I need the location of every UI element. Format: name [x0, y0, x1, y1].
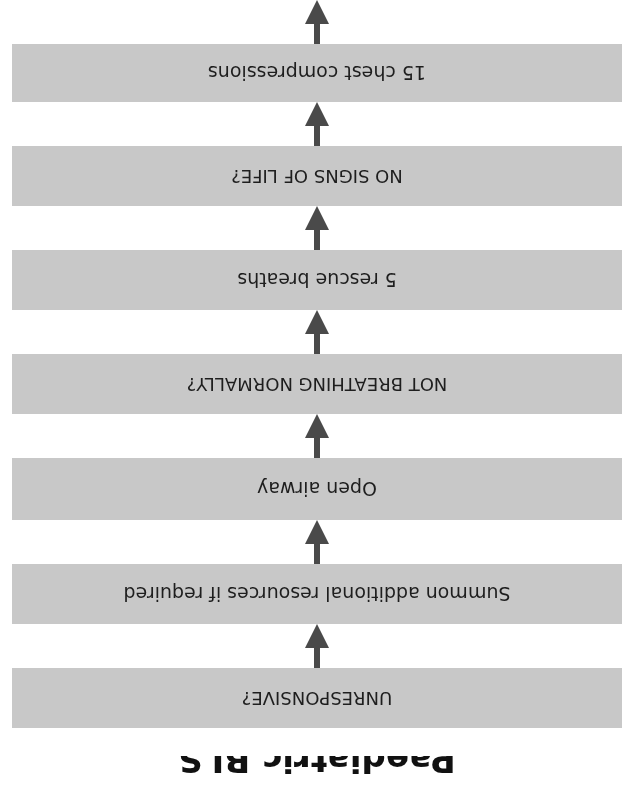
step-label: Open airway [257, 477, 377, 501]
step-not-breathing: NOT BREATHING NORMALLY? [12, 354, 622, 414]
arrow-7 [303, 0, 331, 44]
step-unresponsive: UNRESPONSIVE? [12, 668, 622, 728]
step-label: 5 rescue breaths [237, 268, 397, 292]
step-summon-resources: Summon additional resources if required [12, 564, 622, 624]
step-label: 15 chest compressions [208, 61, 426, 85]
arrow-5 [303, 206, 331, 250]
step-label: NOT BREATHING NORMALLY? [187, 372, 448, 396]
arrow-head-icon [305, 624, 329, 648]
arrow-shaft [314, 126, 320, 146]
step-rescue-breaths: 5 rescue breaths [12, 250, 622, 310]
arrow-head-icon [305, 206, 329, 230]
arrow-shaft [314, 230, 320, 250]
arrow-2 [303, 520, 331, 564]
step-label: NO SIGNS OF LIFE? [231, 164, 403, 188]
step-label: UNRESPONSIVE? [242, 686, 392, 710]
step-no-signs-of-life: NO SIGNS OF LIFE? [12, 146, 622, 206]
flowchart-title-fragment: Paediatric BLS [0, 756, 634, 796]
arrow-3 [303, 414, 331, 458]
arrow-head-icon [305, 310, 329, 334]
flowchart-rotated: Paediatric BLS UNRESPONSIVE? Summon addi… [0, 0, 634, 796]
arrow-shaft [314, 24, 320, 44]
arrow-shaft [314, 438, 320, 458]
arrow-head-icon [305, 520, 329, 544]
arrow-6 [303, 102, 331, 146]
arrow-shaft [314, 334, 320, 354]
arrow-shaft [314, 648, 320, 668]
step-open-airway: Open airway [12, 458, 622, 520]
arrow-1 [303, 624, 331, 668]
arrow-shaft [314, 544, 320, 564]
arrow-head-icon [305, 102, 329, 126]
arrow-head-icon [305, 414, 329, 438]
step-label: Summon additional resources if required [124, 582, 511, 606]
step-chest-compressions: 15 chest compressions [12, 44, 622, 102]
arrow-4 [303, 310, 331, 354]
arrow-head-icon [305, 0, 329, 24]
